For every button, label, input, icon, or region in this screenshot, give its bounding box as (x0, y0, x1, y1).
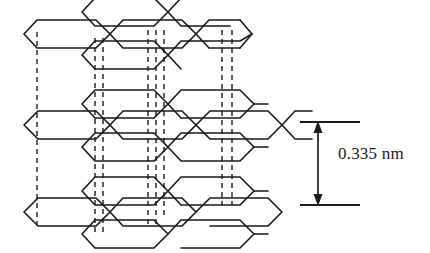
interlayer-spacing-label: 0.335 nm (338, 144, 404, 164)
hex-edge (282, 125, 312, 139)
graphite-structure-figure: 0.335 nm (0, 0, 430, 253)
hex-edge (110, 111, 196, 139)
hex-edge (168, 90, 254, 118)
hex-edge (82, 41, 168, 69)
hex-edge (168, 133, 254, 161)
hex-edge (196, 198, 282, 226)
hex-edge (110, 20, 196, 48)
hex-edge (110, 198, 196, 226)
graphite-lattice-svg (0, 0, 430, 253)
hex-edge (82, 0, 168, 26)
hex-edge (168, 34, 252, 55)
hex-edge (168, 220, 254, 248)
hex-edge (168, 0, 230, 12)
hex-edge (168, 177, 254, 205)
top-layer-lattice (24, 0, 252, 69)
hex-edge (196, 111, 282, 139)
middle-layer-lattice (24, 90, 312, 161)
bottom-layer-lattice (24, 177, 282, 248)
hex-edge (240, 20, 252, 48)
hex-edge (196, 20, 240, 34)
hex-edge (168, 12, 230, 26)
hex-edge (168, 55, 181, 69)
hex-edge (82, 220, 168, 248)
